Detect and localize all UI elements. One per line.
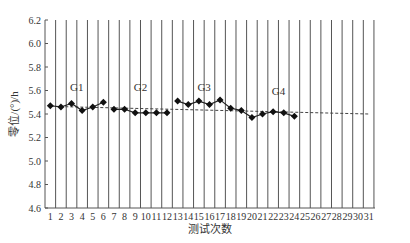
- group-label: G1: [70, 81, 83, 93]
- data-point: [132, 109, 139, 116]
- x-tick-label: 29: [342, 211, 352, 222]
- data-point: [79, 107, 86, 114]
- data-point: [68, 100, 75, 107]
- x-tick-label: 15: [194, 211, 204, 222]
- data-point: [142, 109, 149, 116]
- x-tick-label: 13: [173, 211, 183, 222]
- y-tick-label: 5.6: [29, 85, 42, 96]
- x-tick-label: 18: [226, 211, 236, 222]
- y-tick-label: 4.6: [29, 203, 42, 214]
- x-tick-label: 12: [162, 211, 172, 222]
- y-axis-label: 零位/(°)/h: [7, 91, 21, 137]
- x-tick-label: 16: [204, 211, 214, 222]
- x-tick-label: 10: [141, 211, 151, 222]
- data-point: [174, 98, 181, 105]
- data-point: [206, 101, 213, 108]
- x-tick-label: 2: [58, 211, 63, 222]
- x-tick-label: 11: [152, 211, 162, 222]
- x-tick-label: 26: [311, 211, 321, 222]
- y-tick-label: 6.2: [29, 15, 42, 26]
- x-tick-label: 22: [268, 211, 278, 222]
- line-chart: 4.64.85.05.25.45.65.86.06.21234567891011…: [0, 0, 410, 243]
- x-tick-label: 20: [247, 211, 257, 222]
- data-point: [89, 103, 96, 110]
- y-tick-label: 5.0: [29, 156, 42, 167]
- x-tick-label: 5: [90, 211, 95, 222]
- x-tick-label: 3: [69, 211, 74, 222]
- y-tick-label: 4.8: [29, 179, 42, 190]
- x-tick-label: 19: [236, 211, 246, 222]
- x-tick-label: 30: [353, 211, 363, 222]
- data-point: [110, 106, 117, 113]
- group-label: G2: [134, 81, 147, 93]
- x-tick-label: 25: [300, 211, 310, 222]
- x-tick-label: 24: [289, 211, 299, 222]
- y-tick-label: 5.8: [29, 62, 42, 73]
- data-point: [164, 109, 171, 116]
- x-axis-label: 测试次数: [188, 222, 232, 235]
- group-label: G3: [197, 81, 211, 93]
- data-point: [248, 114, 255, 121]
- y-tick-label: 5.2: [29, 132, 42, 143]
- y-tick-label: 5.4: [29, 109, 42, 120]
- data-point: [185, 101, 192, 108]
- data-point: [195, 98, 202, 105]
- x-tick-label: 28: [332, 211, 342, 222]
- x-tick-label: 4: [80, 211, 85, 222]
- x-tick-label: 14: [183, 211, 193, 222]
- x-tick-label: 21: [258, 211, 268, 222]
- x-tick-label: 8: [122, 211, 127, 222]
- x-tick-label: 31: [364, 211, 374, 222]
- data-point: [270, 108, 277, 115]
- x-tick-label: 6: [101, 211, 106, 222]
- data-point: [280, 109, 287, 116]
- data-point: [57, 103, 64, 110]
- data-point: [153, 109, 160, 116]
- x-tick-label: 7: [111, 211, 116, 222]
- x-tick-label: 23: [279, 211, 289, 222]
- data-point: [291, 113, 298, 120]
- x-tick-label: 9: [133, 211, 138, 222]
- y-tick-label: 6.0: [29, 38, 42, 49]
- x-tick-label: 17: [215, 211, 225, 222]
- data-point: [238, 107, 245, 114]
- data-point: [47, 102, 54, 109]
- x-tick-label: 27: [321, 211, 331, 222]
- group-label: G4: [272, 85, 286, 97]
- x-tick-label: 1: [48, 211, 53, 222]
- data-point: [259, 111, 266, 118]
- data-point: [100, 99, 107, 106]
- chart: 4.64.85.05.25.45.65.86.06.21234567891011…: [0, 0, 410, 243]
- data-point: [121, 106, 128, 113]
